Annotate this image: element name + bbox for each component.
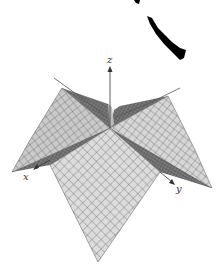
ink-artifacts — [134, 0, 186, 60]
x-axis-label: x — [23, 171, 29, 182]
z-axis-label: z — [106, 54, 113, 65]
y-axis-label: y — [175, 183, 182, 194]
surface-plot-figure: z x y — [0, 0, 224, 275]
